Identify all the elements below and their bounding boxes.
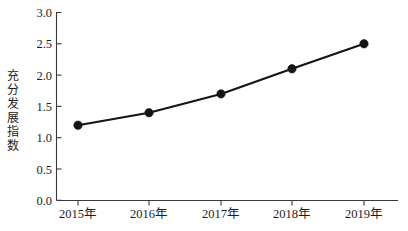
series-markers <box>74 40 368 130</box>
y-axis-tick-labels: 3.0 2.5 2.0 1.5 1.0 0.5 0.0 <box>36 6 52 208</box>
chart-canvas: 3.0 2.5 2.0 1.5 1.0 0.5 0.0 充 分 发 展 指 数 <box>0 0 408 231</box>
data-point-2016年 <box>145 109 153 117</box>
data-point-2015年 <box>74 121 82 129</box>
y-tick-label-6: 3.0 <box>36 6 52 20</box>
y-axis-ticks <box>57 13 62 201</box>
y-axis-title-char-2: 发 <box>7 96 19 111</box>
x-tick-label-1: 2016年 <box>130 207 168 221</box>
y-axis-title-char-0: 充 <box>7 68 19 83</box>
y-axis-title-char-5: 数 <box>7 138 19 153</box>
x-tick-label-3: 2018年 <box>273 207 311 221</box>
y-tick-label-1: 0.5 <box>36 163 52 177</box>
series-line-development-index <box>78 44 364 125</box>
line-chart: 3.0 2.5 2.0 1.5 1.0 0.5 0.0 充 分 发 展 指 数 <box>0 0 408 231</box>
y-tick-label-0: 0.0 <box>36 194 52 208</box>
y-tick-label-5: 2.5 <box>36 37 52 51</box>
y-tick-label-3: 1.5 <box>36 100 52 114</box>
x-axis-ticks <box>78 201 364 206</box>
y-axis-title-char-4: 指 <box>7 124 19 139</box>
y-tick-label-4: 2.0 <box>36 69 52 83</box>
x-axis-tick-labels: 2015年 2016年 2017年 2018年 2019年 <box>59 207 383 221</box>
data-point-2019年 <box>360 40 368 48</box>
y-tick-label-2: 1.0 <box>36 131 52 145</box>
y-axis-title: 充 分 发 展 指 数 <box>7 68 19 153</box>
x-tick-label-2: 2017年 <box>202 207 240 221</box>
y-axis-title-char-3: 展 <box>7 111 19 125</box>
data-point-2017年 <box>217 90 225 98</box>
data-point-2018年 <box>288 65 296 73</box>
x-tick-label-0: 2015年 <box>59 207 97 221</box>
x-tick-label-4: 2019年 <box>345 207 383 221</box>
y-axis-title-char-1: 分 <box>7 83 19 97</box>
